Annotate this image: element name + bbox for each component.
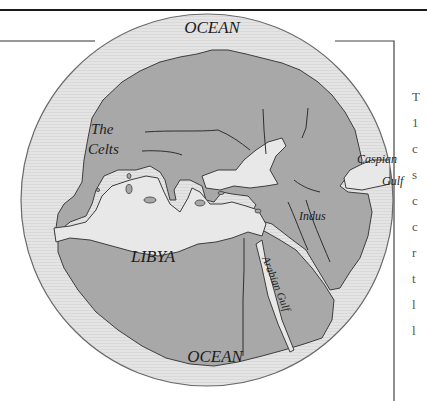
- edge-fragment: c: [412, 188, 427, 214]
- label-celts-2: Celts: [88, 141, 119, 157]
- island: [96, 188, 99, 191]
- edge-fragment: t: [412, 266, 427, 292]
- label-ocean-bottom: OCEAN: [187, 347, 244, 366]
- edge-fragment: c: [412, 214, 427, 240]
- label-celts-1: The: [91, 121, 114, 137]
- edge-fragment: l: [412, 292, 427, 318]
- label-indus: Indus: [298, 209, 326, 223]
- map-figure: OCEAN The Celts Caspian Gulf Indus LIBYA…: [0, 0, 427, 401]
- label-gulf: Gulf: [382, 174, 405, 188]
- edge-fragment: l: [412, 318, 427, 344]
- island: [127, 174, 131, 179]
- edge-fragment: s: [412, 162, 427, 188]
- edge-fragment: c: [412, 136, 427, 162]
- edge-fragment: T: [412, 84, 427, 110]
- island: [255, 209, 261, 213]
- edge-text-column: T 1 c s c c r t l l: [412, 84, 427, 344]
- label-caspian: Caspian: [357, 152, 397, 166]
- edge-fragment: 1: [412, 110, 427, 136]
- label-libya: LIBYA: [130, 247, 176, 266]
- edge-fragment: r: [412, 240, 427, 266]
- label-ocean-top: OCEAN: [184, 18, 241, 37]
- island: [195, 200, 205, 206]
- island: [144, 197, 156, 203]
- island: [126, 185, 132, 194]
- island: [218, 192, 224, 195]
